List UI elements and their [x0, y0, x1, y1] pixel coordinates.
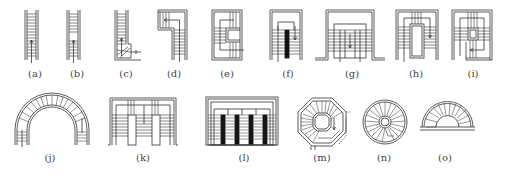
figure-g-split-stair: [315, 10, 385, 62]
figure-label-a: (a): [28, 68, 42, 79]
figure-label-n: (n): [377, 152, 391, 163]
figure-label-k: (k): [136, 152, 150, 163]
figure-label-o: (o): [438, 152, 452, 163]
figure-i-four-flight-stair: [452, 10, 492, 60]
figure-d-l-shaped-stair: [158, 10, 187, 62]
figure-o-semicircular-stair: [420, 102, 475, 130]
figure-f-double-flight-stair: [270, 10, 302, 62]
figure-label-j: (j): [45, 152, 56, 163]
figure-a-straight-stair: [25, 10, 38, 63]
figure-label-b: (b): [70, 68, 84, 79]
figure-label-f: (f): [282, 68, 294, 79]
figure-n-circular-spiral-stair: [363, 100, 407, 144]
stair-types-diagram: (a) (b) (c) (d) (e) (f) (g) (h) (i) (j) …: [0, 0, 515, 179]
figure-label-l: (l): [238, 152, 249, 163]
figure-e-three-flight-stair: [212, 10, 244, 60]
figure-label-e: (e): [220, 68, 234, 79]
figure-b-straight-stair-landing: [67, 10, 80, 63]
figure-label-g: (g): [345, 68, 359, 79]
figure-label-c: (c): [119, 68, 132, 79]
figure-m-octagonal-spiral-stair: [298, 98, 350, 150]
figure-l-multi-flight-stair: [206, 97, 278, 145]
figure-h-open-well-stair: [396, 10, 438, 62]
figure-label-i: (i): [467, 68, 478, 79]
figure-label-m: (m): [313, 152, 330, 163]
figure-j-arch-stair: [15, 93, 89, 147]
figure-k-twin-stair: [108, 98, 178, 145]
figure-label-d: (d): [167, 68, 181, 79]
figure-c-winder-stair: [115, 10, 141, 60]
figure-label-h: (h): [409, 68, 423, 79]
